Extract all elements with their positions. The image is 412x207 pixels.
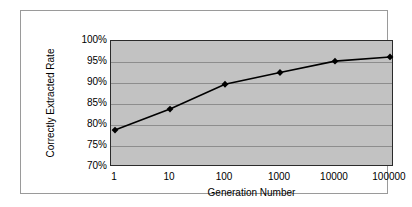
- data-point-marker: [332, 58, 339, 65]
- y-axis-tick-label: 85%: [65, 98, 107, 108]
- data-point-marker: [167, 106, 174, 113]
- plot-area: [110, 40, 393, 166]
- x-axis-tick-label: 10000: [320, 171, 348, 183]
- y-axis-tick-label: 70%: [65, 161, 107, 171]
- y-axis-tick-label: 95%: [65, 56, 107, 66]
- y-axis-tick-label: 100%: [65, 35, 107, 45]
- data-point-marker: [387, 54, 394, 61]
- y-axis-tick-label: 90%: [65, 77, 107, 87]
- y-axis-tick-label: 80%: [65, 119, 107, 129]
- x-axis-tick-label: 100000: [372, 171, 405, 183]
- data-point-marker: [222, 81, 229, 88]
- data-point-marker: [277, 69, 284, 76]
- x-axis-tick-label: 1000: [268, 171, 290, 183]
- y-axis-title: Correctly Extracted Rate: [43, 40, 59, 166]
- x-axis-tick-label: 1: [111, 171, 117, 183]
- x-axis-tick-labels: 110100100010000100000: [110, 171, 393, 185]
- x-axis-tick-label: 10: [163, 171, 174, 183]
- data-series-line: [111, 41, 394, 167]
- chart-figure: Correctly Extracted Rate 100%95%90%85%80…: [0, 0, 412, 207]
- x-axis-tick-label: 100: [216, 171, 233, 183]
- series-line: [115, 57, 390, 130]
- y-axis-tick-label: 75%: [65, 140, 107, 150]
- x-axis-title: Generation Number: [110, 187, 393, 199]
- y-axis-tick-labels: 100%95%90%85%80%75%70%: [65, 40, 107, 166]
- chart-frame: Correctly Extracted Rate 100%95%90%85%80…: [20, 10, 388, 194]
- data-point-marker: [112, 127, 119, 134]
